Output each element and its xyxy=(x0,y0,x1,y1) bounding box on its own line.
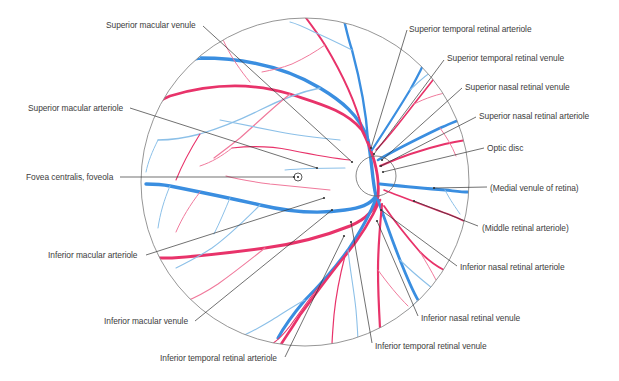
arteriole-vessel xyxy=(232,147,350,160)
venule-light-vessel xyxy=(348,250,358,344)
leader-endpoint-inferior-macular-arteriole xyxy=(323,197,325,199)
leader-line-medial-venule-of-retina xyxy=(434,187,487,188)
leader-endpoint-superior-macular-venule xyxy=(351,161,353,163)
leader-line-inferior-nasal-retinal-venule xyxy=(377,221,418,316)
label-fovea-centralis: Fovea centralis, foveola xyxy=(26,172,113,182)
arteriole-light-vessel xyxy=(420,252,436,280)
leader-endpoint-superior-temporal-retinal-venule xyxy=(373,153,375,155)
retinal-vessels xyxy=(146,18,468,346)
leader-line-middle-retinal-arteriole xyxy=(414,201,478,226)
venule-vessel xyxy=(372,54,428,150)
leader-endpoint-inferior-temporal-retinal-arteriole xyxy=(343,235,345,237)
leader-line-inferior-macular-venule xyxy=(195,210,332,321)
arteriole-light-vessel xyxy=(176,192,200,232)
arteriole-light-vessel xyxy=(218,28,250,82)
label-superior-macular-venule: Superior macular venule xyxy=(106,20,196,30)
arteriole-vessel xyxy=(378,204,382,328)
venule-light-vessel xyxy=(285,168,345,170)
leader-endpoint-medial-venule-of-retina xyxy=(433,187,435,189)
leader-endpoint-superior-nasal-retinal-arteriole xyxy=(380,165,382,167)
leader-endpoint-inferior-nasal-retinal-venule xyxy=(376,220,378,222)
arteriole-vessel xyxy=(384,190,466,222)
arteriole-vessel xyxy=(176,134,200,180)
venule-light-vessel xyxy=(290,22,352,50)
label-superior-nasal-retinal-arteriole: Superior nasal retinal arteriole xyxy=(479,111,589,121)
venule-vessel xyxy=(378,118,464,160)
label-inferior-temporal-retinal-venule: Inferior temporal retinal venule xyxy=(375,341,487,351)
leader-endpoint-inferior-temporal-retinal-venule xyxy=(350,221,352,223)
leader-endpoint-inferior-macular-venule xyxy=(331,209,333,211)
label-superior-macular-arteriole: Superior macular arteriole xyxy=(28,103,123,113)
venule-light-vessel xyxy=(445,190,460,214)
venule-light-vessel xyxy=(176,34,200,58)
arteriole-light-vessel xyxy=(378,270,408,306)
leader-line-inferior-macular-arteriole xyxy=(146,198,324,255)
venule-light-vessel xyxy=(176,205,260,268)
venule-vessel xyxy=(146,184,376,212)
label-inferior-nasal-retinal-venule: Inferior nasal retinal venule xyxy=(421,313,520,323)
label-medial-venule-of-retina: (Medial venule of retina) xyxy=(490,183,579,193)
venule-vessel xyxy=(380,184,468,192)
leader-endpoint-fovea-centralis xyxy=(293,176,295,178)
label-inferior-macular-arteriole: Inferior macular arteriole xyxy=(48,250,137,260)
venule-vessel xyxy=(378,200,418,300)
label-inferior-macular-venule: Inferior macular venule xyxy=(104,316,188,326)
leader-line-superior-temporal-retinal-arteriole xyxy=(371,30,407,148)
leader-endpoint-inferior-nasal-retinal-arteriole xyxy=(380,209,382,211)
retinal-vessel-diagram: Superior macular venuleSuperior macular … xyxy=(0,0,619,381)
label-optic-disc: Optic disc xyxy=(487,143,523,153)
leader-line-inferior-temporal-retinal-arteriole xyxy=(285,236,344,357)
venule-light-vessel xyxy=(146,140,158,172)
leader-endpoint-superior-nasal-retinal-venule xyxy=(381,159,383,161)
label-superior-temporal-retinal-venule: Superior temporal retinal venule xyxy=(447,53,564,63)
venule-light-vessel xyxy=(158,186,170,228)
arteriole-light-vessel xyxy=(226,176,330,190)
arteriole-vessel xyxy=(306,18,362,128)
venule-light-vessel xyxy=(220,120,340,140)
leader-line-superior-temporal-retinal-venule xyxy=(374,60,444,154)
label-middle-retinal-arteriole: (Middle retinal arteriole) xyxy=(482,223,569,233)
label-inferior-nasal-retinal-arteriole: Inferior nasal retinal arteriole xyxy=(460,262,565,272)
leader-endpoint-superior-temporal-retinal-arteriole xyxy=(370,147,372,149)
label-superior-nasal-retinal-venule: Superior nasal retinal venule xyxy=(465,82,570,92)
leader-line-superior-macular-arteriole xyxy=(130,108,317,168)
leader-endpoint-superior-macular-arteriole xyxy=(316,167,318,169)
label-inferior-temporal-retinal-arteriole: Inferior temporal retinal arteriole xyxy=(160,353,277,363)
fundus-outline xyxy=(141,18,469,346)
label-superior-temporal-retinal-arteriole: Superior temporal retinal arteriole xyxy=(409,24,532,34)
leader-endpoint-optic-disc xyxy=(382,171,384,173)
fovea-center-dot xyxy=(297,176,299,178)
leader-endpoint-middle-retinal-arteriole xyxy=(413,200,415,202)
leader-line-inferior-temporal-retinal-venule xyxy=(351,222,372,343)
